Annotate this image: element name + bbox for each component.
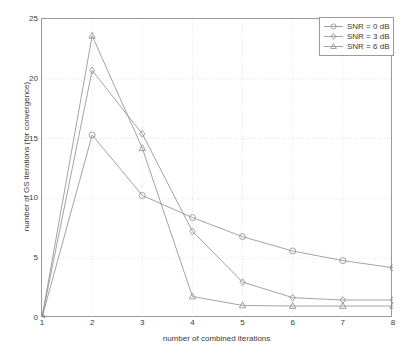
x-tick-label: 4 (190, 319, 194, 327)
x-tick-label: 2 (90, 319, 94, 327)
series-layer (42, 19, 393, 318)
legend-label: SNR = 3 dB (347, 32, 389, 41)
legend-label: SNR = 6 dB (347, 42, 389, 51)
series-line (42, 70, 393, 317)
x-tick-label: 1 (40, 319, 44, 327)
series-0 (42, 132, 393, 318)
x-tick-label: 8 (391, 319, 395, 327)
x-tick-label: 3 (140, 319, 144, 327)
legend-entry[interactable]: SNR = 0 dB (323, 22, 389, 31)
legend-label: SNR = 0 dB (347, 22, 389, 31)
x-tick-label: 6 (290, 319, 294, 327)
x-axis-title: number of combined iterations (41, 334, 392, 343)
plot-area: 0510152025 12345678 (41, 18, 392, 317)
triangle-marker (331, 43, 337, 48)
triangle-marker (323, 42, 344, 51)
x-tick-label: 5 (240, 319, 244, 327)
y-tick-label: 0 (34, 314, 38, 322)
legend[interactable]: SNR = 0 dBSNR = 3 dBSNR = 6 dB (319, 17, 394, 56)
cut-off-caption (0, 346, 403, 356)
series-line (42, 36, 393, 318)
series-1 (42, 67, 393, 318)
legend-entry[interactable]: SNR = 3 dB (323, 32, 389, 41)
y-axis-title: number of GS iterations (for convergence… (22, 47, 31, 267)
x-tick-label: 7 (341, 319, 345, 327)
triangle-marker (390, 303, 393, 309)
legend-entry[interactable]: SNR = 6 dB (323, 42, 389, 51)
circle-marker (323, 22, 344, 31)
series-line (42, 135, 393, 317)
series-2 (42, 32, 393, 318)
y-tick-label: 25 (29, 15, 38, 23)
diamond-marker (323, 32, 344, 41)
y-tick-label: 5 (34, 254, 38, 262)
figure-container: 0510152025 12345678 number of combined i… (0, 0, 403, 356)
triangle-marker (290, 303, 296, 309)
